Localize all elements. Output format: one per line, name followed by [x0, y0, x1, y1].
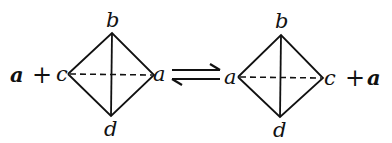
left-right-vertex-label: a	[153, 62, 166, 86]
right-top-vertex-label: b	[275, 9, 288, 33]
right-vertical-edge	[280, 35, 281, 117]
left-reactant-label: a	[10, 62, 24, 87]
right-tetrahedron: b d a c	[224, 9, 336, 142]
right-plus-sign: +	[345, 64, 365, 92]
right-product-label: a	[367, 65, 381, 90]
equilibrium-arrow-icon	[172, 64, 220, 85]
left-left-vertex-label: c	[56, 62, 68, 86]
right-right-vertex-label: c	[324, 66, 336, 90]
left-dashed-edge	[70, 74, 152, 75]
right-dashed-edge	[240, 77, 321, 78]
right-left-vertex-label: a	[224, 65, 237, 89]
left-tetrahedron: b d c a	[56, 8, 166, 141]
reaction-diagram: a + b d c a b d a c + a	[0, 0, 392, 143]
left-bottom-vertex-label: d	[104, 117, 117, 141]
right-bottom-vertex-label: d	[273, 118, 286, 142]
left-top-vertex-label: b	[106, 8, 119, 32]
left-plus-sign: +	[32, 61, 52, 89]
